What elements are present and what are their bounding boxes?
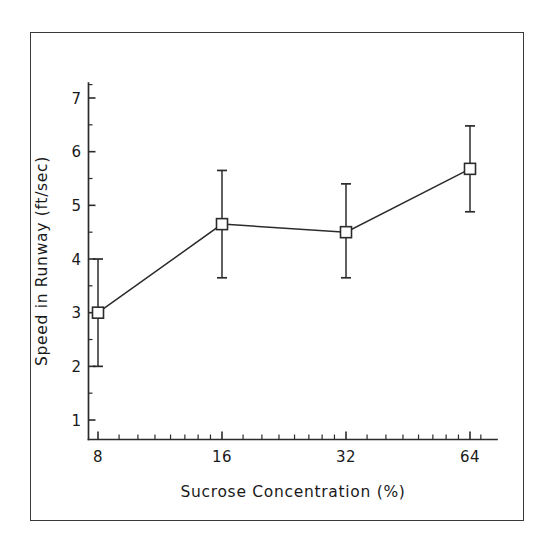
y-tick-label: 2 [72, 358, 82, 376]
data-point-marker [341, 227, 352, 238]
x-tick-label: 16 [212, 448, 232, 466]
y-tick-label: 3 [72, 304, 82, 322]
y-tick-label: 6 [72, 143, 82, 161]
x-tick-label: 8 [93, 448, 103, 466]
chart-plot-area: 1234567 8163264 Sucrose Concentration (%… [0, 0, 553, 546]
x-tick-label: 64 [460, 448, 480, 466]
data-point-marker [93, 307, 104, 318]
x-axis-title: Sucrose Concentration (%) [180, 483, 405, 501]
y-tick-label: 5 [72, 197, 82, 215]
x-axis-tick-labels: 8163264 [93, 448, 480, 466]
figure-canvas: 1234567 8163264 Sucrose Concentration (%… [0, 0, 553, 546]
data-point-markers [93, 163, 476, 318]
error-bars [93, 126, 475, 366]
data-point-marker [465, 163, 476, 174]
y-tick-label: 7 [72, 90, 82, 108]
y-axis-tick-labels: 1234567 [72, 90, 82, 430]
y-tick-label: 4 [72, 251, 82, 269]
x-axis-major-ticks [98, 432, 470, 440]
y-axis-title: Speed in Runway (ft/sec) [33, 156, 51, 366]
data-point-marker [217, 219, 228, 230]
x-tick-label: 32 [336, 448, 356, 466]
y-tick-label: 1 [72, 412, 82, 430]
data-series-line [98, 169, 470, 313]
